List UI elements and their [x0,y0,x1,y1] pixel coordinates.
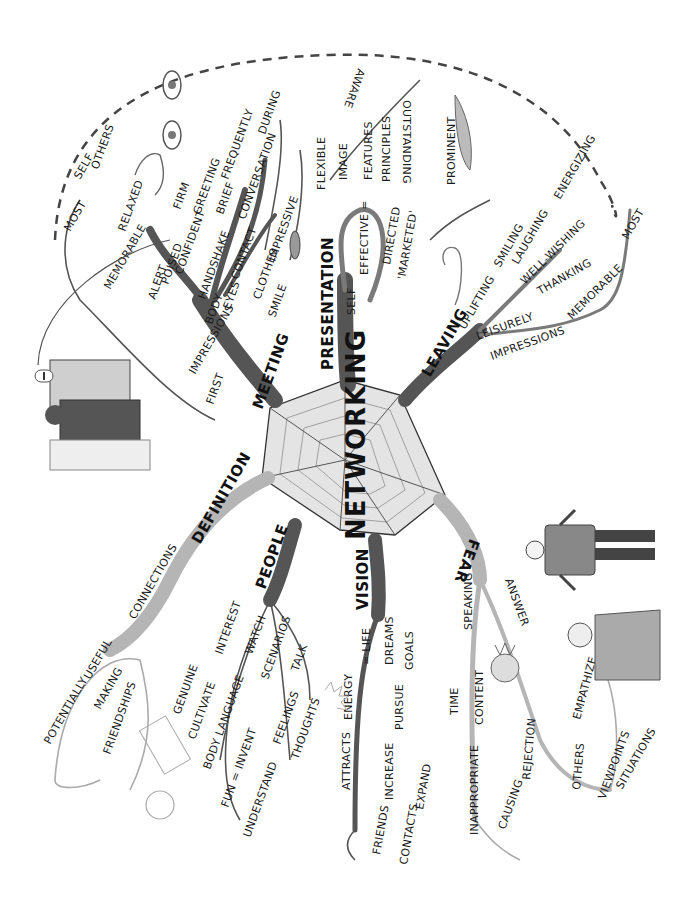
label-contacts: CONTACTS [397,803,420,866]
label-goals: GOALS [403,631,416,670]
label-principles: PRINCIPLES [380,116,393,182]
label-self-p: SELF [345,287,358,315]
presentation-label: PRESENTATION [319,237,337,370]
label-firm: FIRM [171,180,193,211]
label-most-l: MOST [619,206,647,241]
label-flexible: FLEXIBLE [315,137,328,190]
waving-hand-icon [443,247,461,305]
label-smile: SMILE [266,282,290,319]
lips-icon [290,231,300,259]
label-uplifting: UPLIFTING [456,273,497,331]
label-increase: INCREASE [383,742,396,800]
standing-man-illustration [526,510,655,590]
label-others: OTHERS [89,122,117,171]
label-most: MOST [61,198,89,233]
mind-map-canvas: NETWORKING MEETING FIRST IMPRESSIONS MEM… [0,0,690,897]
label-life: = LIFE [360,628,373,665]
label-effective: EFFECTIVE = [358,200,371,275]
label-inappropriate: INAPPROPRIATE [468,745,481,835]
label-rejection: REJECTION [520,717,538,780]
label-friends: FRIENDS [370,804,391,855]
label-interest: INTEREST [213,599,244,656]
label-confident: CONFIDENT [173,208,208,276]
label-features: FEATURES [362,121,375,180]
label-causing: CAUSING [496,777,526,831]
mind-map-svg: NETWORKING MEETING FIRST IMPRESSIONS MEM… [0,0,690,897]
stressed-head-illustration [491,643,519,682]
label-expand: EXPAND [413,763,434,811]
eye-icon [163,121,181,149]
label-aware: AWARE [341,67,367,110]
label-pursue: PURSUE [393,684,406,730]
label-during: DURING [256,88,284,136]
label-content: CONTENT [473,670,486,725]
label-potentially: POTENTIALLY [41,675,90,747]
label-speaking: SPEAKING [462,572,475,630]
meeting-scene-illustration [35,240,170,470]
label-answer: ANSWER [502,577,531,628]
label-attracts: ATTRACTS [340,732,353,790]
thinking-man-illustration [568,610,660,680]
label-understand: UNDERSTAND [241,760,280,839]
vision-label: VISION [354,548,372,610]
label-first: FIRST [204,371,227,406]
label-brief: BRIEF [214,180,238,216]
label-image: IMAGE [337,143,350,180]
label-frequently: FREQUENTLY [219,107,256,181]
dashed-connector [55,55,616,240]
branch-vision [375,540,379,615]
label-time: TIME [448,687,461,716]
label-watch: WATCH [243,614,269,656]
eye-icon [163,71,181,99]
branch-definition [110,478,268,650]
label-dreams: DREAMS [383,616,396,665]
label-outstanding: OUTSTANDING [400,100,413,184]
center-label: NETWORKING [341,329,371,540]
